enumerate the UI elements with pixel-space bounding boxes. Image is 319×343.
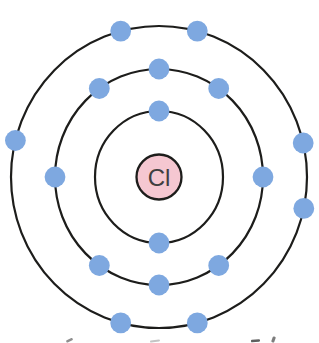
- electron: [89, 255, 110, 276]
- electron: [293, 198, 314, 219]
- electron: [110, 21, 131, 42]
- cropped-caption-fragment: [271, 336, 276, 343]
- electron: [149, 59, 170, 80]
- electron: [293, 133, 314, 154]
- electron: [5, 130, 26, 151]
- bohr-model-figure: Cl: [0, 0, 319, 343]
- cropped-caption-fragment: [251, 339, 260, 342]
- nucleus-label: Cl: [148, 164, 171, 191]
- electron: [89, 78, 110, 99]
- atom-diagram: Cl: [0, 0, 319, 343]
- electron: [187, 313, 208, 334]
- electron: [149, 233, 170, 254]
- cropped-caption-fragment: [66, 338, 73, 343]
- cropped-caption-fragments: [66, 336, 276, 343]
- electron: [149, 275, 170, 296]
- electron: [253, 167, 274, 188]
- electron: [208, 78, 229, 99]
- electron: [187, 21, 208, 42]
- electron: [110, 313, 131, 334]
- cropped-caption-fragment: [150, 339, 160, 342]
- electron: [45, 167, 66, 188]
- electron: [208, 255, 229, 276]
- electron: [149, 101, 170, 122]
